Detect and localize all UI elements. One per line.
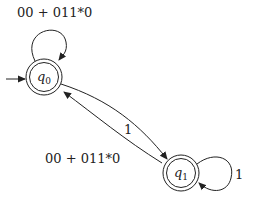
self-loop-q0 — [32, 30, 67, 61]
state-q1-label: q1 — [174, 165, 188, 182]
diagram-svg: q0 00 + 011*0 1 00 + 011*0 q1 1 — [0, 0, 253, 204]
self-loop-q0-label: 00 + 011*0 — [17, 5, 92, 20]
transition-q0-q1-label: 1 — [124, 122, 132, 137]
transition-q1-q0-label: 00 + 011*0 — [45, 151, 120, 166]
transition-q0-q1 — [61, 84, 167, 159]
state-q1: q1 — [163, 155, 199, 191]
state-q0-label: q0 — [37, 69, 51, 86]
self-loop-q1-label: 1 — [235, 167, 243, 182]
state-q0: q0 — [26, 59, 62, 95]
self-loop-q1 — [197, 157, 232, 191]
automaton-diagram: q0 00 + 011*0 1 00 + 011*0 q1 1 — [0, 0, 253, 204]
